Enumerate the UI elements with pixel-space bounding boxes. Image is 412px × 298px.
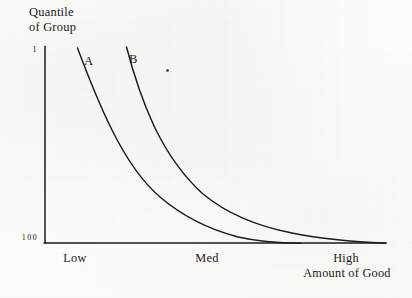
y-axis-title-line1: Quantile <box>29 5 74 19</box>
curve-b-label: B <box>129 52 138 67</box>
y-tick-label-1: 1 <box>8 45 38 55</box>
curve-a-label: A <box>84 54 93 69</box>
figure-canvas: Quantileof Group 1 100 Low Med High Amou… <box>0 0 412 298</box>
y-tick-label-100: 100 <box>1 233 38 243</box>
ink-speck <box>166 69 169 72</box>
x-axis-title: Amount of Good <box>282 266 412 281</box>
curve-a <box>78 48 302 243</box>
y-axis-title: Quantileof Group <box>29 5 76 35</box>
x-tick-label-med: Med <box>180 251 234 266</box>
y-axis-title-line2: of Group <box>29 20 76 35</box>
x-tick-label-high: High <box>313 251 379 266</box>
x-tick-label-low: Low <box>44 251 106 266</box>
curve-b <box>127 47 386 243</box>
